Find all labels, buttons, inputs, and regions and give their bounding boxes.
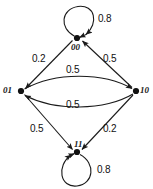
edge-label-00-01: 0.2	[32, 54, 45, 64]
edge-10-to-00	[83, 41, 133, 88]
node-label-11: 11	[74, 140, 83, 149]
edge-11-to-11	[62, 154, 91, 187]
state-diagram: 00 01 10 11 0.8 0.2 0.5 0.5 0.5 0.5 0.2 …	[0, 0, 153, 189]
edge-path-10-00	[83, 41, 133, 88]
edge-path-00-00	[64, 6, 94, 36]
edge-path-11-11	[62, 155, 91, 187]
node-dot-00[interactable]	[74, 35, 80, 41]
node-label-00: 00	[71, 43, 80, 52]
edge-path-01-10	[25, 76, 133, 89]
node-label-01: 01	[3, 86, 12, 95]
state-diagram-canvas	[0, 0, 153, 189]
edge-label-00-00: 0.8	[98, 14, 111, 24]
node-dot-11[interactable]	[74, 149, 80, 155]
edge-00-to-00	[64, 6, 94, 37]
edge-label-01-10: 0.5	[66, 65, 79, 75]
node-dot-01[interactable]	[18, 88, 24, 94]
node-dot-10[interactable]	[133, 88, 139, 94]
edge-arrow-00-00-in	[80, 35, 86, 38]
edge-label-10-11: 0.2	[103, 124, 116, 134]
edge-01-to-10	[25, 76, 133, 89]
edge-label-01-11: 0.5	[30, 124, 43, 134]
edge-label-10-01: 0.5	[66, 100, 79, 110]
edge-arrow-11-11-in	[71, 154, 74, 155]
edge-label-11-11: 0.8	[97, 165, 110, 175]
edge-label-10-00: 0.5	[103, 54, 116, 64]
node-label-10: 10	[140, 86, 149, 95]
